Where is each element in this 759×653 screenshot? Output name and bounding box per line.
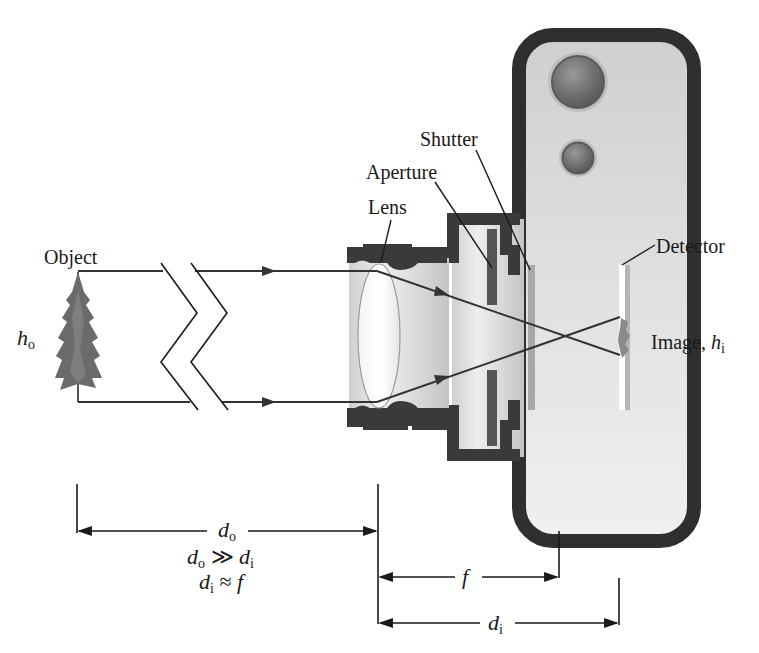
relation-do-much-greater-di: do ≫ di [187,544,254,571]
f-label: f [462,564,471,589]
distance-break-icon [161,263,228,410]
object-label: Object [44,246,98,269]
object-tree-icon [55,272,102,402]
aperture-blade-bottom [487,370,497,446]
image-label: Image, hi [651,331,725,356]
do-label: do [218,517,236,544]
detector-label: Detector [656,235,725,257]
object-height-label: ho [17,325,35,352]
shutter [528,265,535,410]
di-label: di [488,610,503,637]
small-button-icon [559,139,597,177]
relation-di-approx-f: di ≈ f [199,569,246,596]
camera-body [519,35,694,541]
aperture-label: Aperture [366,161,437,184]
lens-label: Lens [368,196,407,218]
shutter-label: Shutter [420,128,478,150]
camera-diagram: Object Lens Aperture Shutter Detector Im… [0,0,759,653]
lens [358,264,400,408]
aperture-housing [447,213,524,461]
large-button-icon [548,52,608,112]
